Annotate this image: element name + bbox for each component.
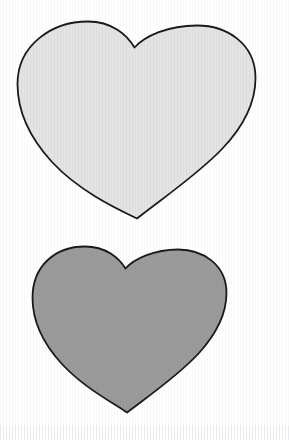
image-canvas	[0, 0, 289, 440]
heart-dark-shape	[33, 247, 227, 413]
hearts-illustration	[0, 0, 289, 440]
heart-light-shape	[18, 22, 256, 219]
